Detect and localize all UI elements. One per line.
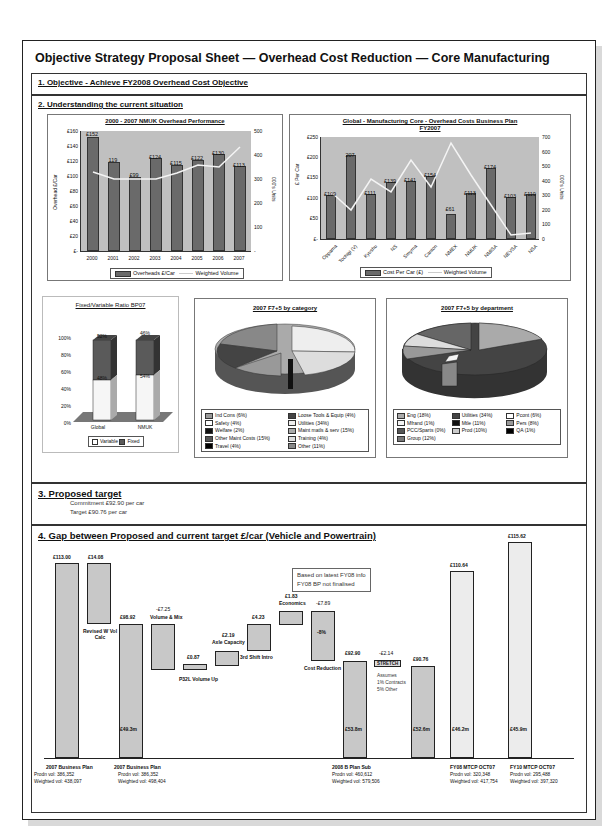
pie-3d-category [195,314,375,409]
section-gap-waterfall: 4. Gap between Proposed and current targ… [31,525,587,813]
section-heading: 1. Objective - Achieve FY2008 Overhead C… [38,78,248,87]
footer-2007-bp-revised: 2007 Business Plan Prodn vol: 386,352 We… [114,764,166,785]
bar-2007-bp [55,563,79,758]
chart-title: 2007 F7+5 by category [195,305,375,311]
note-box: Based on latest FY08 infoFY08 BP not fin… [292,568,371,592]
footer-fy10-mtcp: FY10 MTCP OCT07 Prodn vol: 295,488 Weigh… [510,764,558,785]
section-objective: 1. Objective - Achieve FY2008 Overhead C… [31,73,587,95]
section-heading: 2. Understanding the current situation [38,100,183,109]
section-proposed-target: 3. Proposed target Commitment £92.90 per… [31,483,587,525]
chart-legend: Cost Per Car (£) Weighted Volume [360,267,492,278]
waterfall-baseline [44,758,574,759]
bar-2007-bp-revised [119,624,143,758]
footer-2008-bp-sub: 2008 B Plan Sub Prodn vol: 460,612 Weigh… [332,764,380,785]
commitment-text: Commitment £92.90 per car [70,500,144,506]
chart-legend: Ind Cons (6%) Loose Tools & Equip (4%) S… [201,409,369,452]
proposal-sheet: Objective Strategy Proposal Sheet — Over… [22,40,596,820]
stretch-badge: STRETCH [374,660,401,667]
bar-3rd-shift [247,624,271,651]
target-text: Target £90.76 per car [70,509,127,515]
stacked-3d-bars [68,327,178,427]
chart-title: 2000 - 2007 NMUK Overhead Performance [48,118,282,124]
bar-axle-capacity [215,651,239,666]
chart-legend: Overheads £/Car Weighted Volume [110,268,244,279]
bar-2008-bp-sub [343,661,367,758]
bar-revised-vol [87,563,111,624]
y-axis-label: Overhead £/Car [52,174,58,210]
pie-3d-department [387,314,567,409]
weighted-volume-line [81,131,251,251]
stretch-assumptions: Assumes 1% Contracts 5% Other [377,672,406,693]
chart-pie-by-department: 2007 F7+5 by department Eng (18%) Utilit… [386,298,568,458]
chart-global-overhead: Global - Manufacturing Core - Overhead C… [289,114,571,281]
chart-title: Global - Manufacturing Core - Overhead C… [290,118,570,124]
chart-title: Fixed/Variable Ratio BP07 [43,302,178,308]
bar-economics [279,611,303,625]
bar-p32l-volume [183,664,207,670]
section-heading: 4. Gap between Proposed and current targ… [38,530,376,541]
chart-legend: Variable Fixed [88,436,144,447]
chart-fixed-variable-ratio: Fixed/Variable Ratio BP07 100% 80% 60% 4… [42,296,179,453]
bar-target [411,666,435,758]
footer-fy08-mtcp: FY08 MTCP OCT07 Prodn vol: 320,348 Weigh… [450,764,498,785]
bar-cost-reduction [311,611,335,661]
page-title: Objective Strategy Proposal Sheet — Over… [35,51,550,65]
bar-volume-mix [151,624,175,670]
chart-legend: Eng (18%) Utilities (34%) Pcont (6%) Mfr… [393,409,561,445]
section-situation: 2. Understanding the current situation 2… [31,95,587,483]
footer-2007-bp: 2007 Business Plan Prodn vol: 386,352 We… [34,764,93,785]
chart-pie-by-category: 2007 F7+5 by category Ind Cons (6%) Loos… [194,298,376,458]
chart-subtitle: FY2007 [290,125,570,131]
chart-title: 2007 F7+5 by department [387,305,567,311]
section-heading: 3. Proposed target [38,488,121,499]
chart-nmuk-overhead: 2000 - 2007 NMUK Overhead Performance Ov… [47,114,283,281]
